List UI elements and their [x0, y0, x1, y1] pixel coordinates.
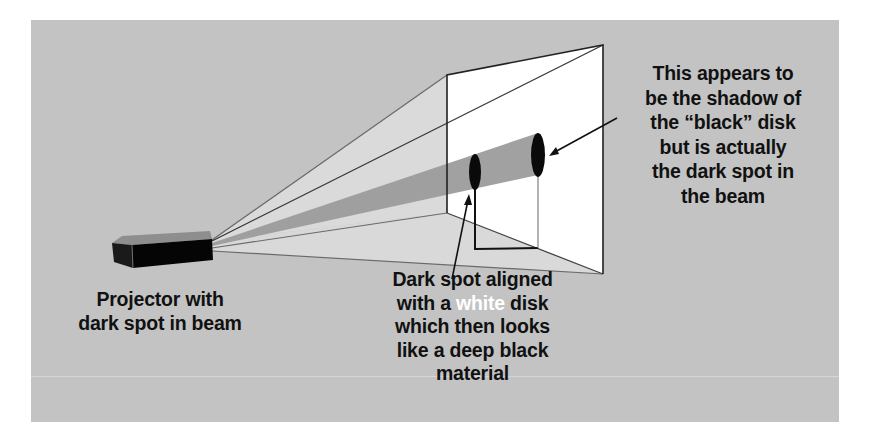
projector-label-line: dark spot in beam [50, 312, 270, 336]
white-highlight-word: white [456, 292, 505, 314]
label-text: with a [397, 292, 456, 314]
white-disk-label-line: which then looks [360, 315, 585, 339]
shadow-label-line: This appears to [623, 61, 823, 86]
white-disk-label-line: with a white disk [360, 292, 585, 316]
projector-label: Projector with dark spot in beam [50, 288, 270, 335]
shadow-label-line: the “black” disk [623, 110, 823, 135]
white-disk-label-line: Dark spot aligned [360, 268, 585, 292]
white-disk-label: Dark spot aligned with a white disk whic… [360, 268, 585, 386]
label-text: disk [505, 292, 548, 314]
shadow-label-line: but is actually [623, 135, 823, 160]
shadow-label-line: the dark spot in [623, 159, 823, 184]
projector-side [112, 243, 133, 268]
projector-label-line: Projector with [50, 288, 270, 312]
shadow-label: This appears to be the shadow of the “bl… [623, 61, 823, 208]
white-disk-label-line: like a deep black [360, 339, 585, 363]
shadow-disk [531, 133, 545, 177]
shadow-label-line: the beam [623, 184, 823, 209]
white-disk [469, 154, 481, 190]
white-disk-label-line: material [360, 362, 585, 386]
shadow-label-line: be the shadow of [623, 86, 823, 111]
